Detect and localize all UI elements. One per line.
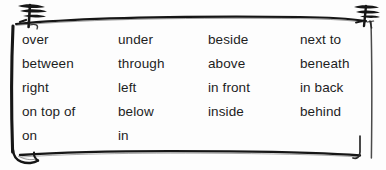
cutoff-text-above-box bbox=[0, 0, 386, 7]
frame-bottom-border-shade bbox=[22, 153, 358, 157]
corner-mark-top-right-icon bbox=[354, 5, 380, 28]
word-item: beside bbox=[208, 28, 250, 52]
word-item: below bbox=[118, 100, 165, 124]
word-item: on top of bbox=[22, 100, 75, 124]
word-item: in bbox=[118, 124, 165, 148]
corner-mark-bottom-left-icon bbox=[13, 150, 38, 163]
word-item: through bbox=[118, 52, 165, 76]
word-item: on bbox=[22, 124, 75, 148]
word-column-3: beside above in front inside bbox=[208, 28, 250, 124]
word-item: under bbox=[118, 28, 165, 52]
word-item: next to bbox=[300, 28, 350, 52]
word-item: right bbox=[22, 76, 75, 100]
frame-top-border bbox=[16, 17, 366, 24]
word-item: beneath bbox=[300, 52, 350, 76]
word-column-2: under through left below in bbox=[118, 28, 165, 148]
word-item: behind bbox=[300, 100, 350, 124]
corner-mark-bottom-right-icon bbox=[353, 136, 360, 158]
word-item: inside bbox=[208, 100, 250, 124]
frame-bottom-border bbox=[20, 151, 360, 155]
word-item: over bbox=[22, 28, 75, 52]
word-item: left bbox=[118, 76, 165, 100]
word-column-1: over between right on top of on bbox=[22, 28, 75, 148]
frame-right-border bbox=[371, 22, 372, 158]
word-item: between bbox=[22, 52, 75, 76]
frame-left-border bbox=[12, 26, 13, 152]
word-item: in front bbox=[208, 76, 250, 100]
word-item: above bbox=[208, 52, 250, 76]
word-column-4: next to beneath in back behind bbox=[300, 28, 350, 124]
scanned-page: over between right on top of on under th… bbox=[0, 0, 386, 170]
word-item: in back bbox=[300, 76, 350, 100]
corner-mark-top-left-icon bbox=[18, 4, 47, 29]
frame-top-border-shade bbox=[16, 18, 366, 25]
